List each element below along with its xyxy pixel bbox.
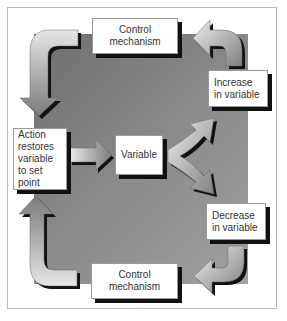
arrow-fork-icon [168, 118, 217, 197]
increase-label: Increase in variable [214, 77, 262, 101]
top-control-label: Control mechanism [98, 24, 172, 48]
action-label: Action restores variable to set point [18, 129, 62, 189]
arrow-bottom-left-icon [19, 196, 80, 289]
increase-in-variable-box: Increase in variable [208, 70, 268, 107]
arrow-top-right-icon [193, 20, 245, 69]
decrease-in-variable-box: Decrease in variable [206, 203, 266, 240]
arrow-top-left-icon [20, 30, 81, 119]
variable-box: Variable [115, 135, 163, 175]
arrow-action-to-variable-icon [70, 140, 114, 173]
action-restores-box: Action restores variable to set point [13, 128, 67, 190]
bottom-control-mechanism-box: Control mechanism [91, 263, 178, 299]
variable-label: Variable [121, 149, 157, 161]
bottom-control-label: Control mechanism [97, 269, 172, 293]
top-control-mechanism-box: Control mechanism [92, 18, 178, 54]
arrow-bottom-right-icon [194, 246, 247, 296]
decrease-label: Decrease in variable [212, 210, 260, 234]
